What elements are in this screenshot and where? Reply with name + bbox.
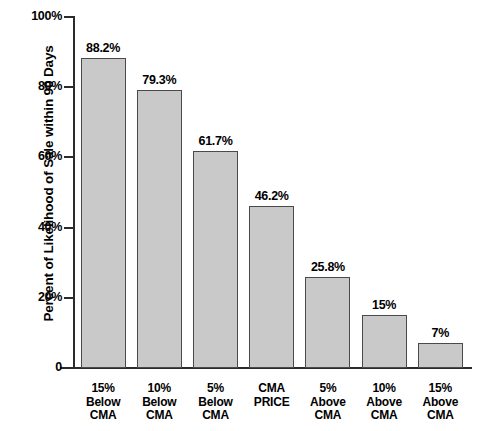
- bar: [305, 277, 350, 368]
- y-tick-label: 0: [12, 360, 62, 374]
- bar-value-label: 15%: [350, 298, 419, 312]
- y-tick-mark: [64, 156, 74, 158]
- y-tick-label: 60%: [12, 149, 62, 163]
- bar-value-label: 88.2%: [69, 41, 138, 55]
- y-tick-mark: [64, 367, 74, 369]
- y-tick-mark: [64, 297, 74, 299]
- x-category-line: Above: [408, 396, 473, 410]
- bar-value-label: 61.7%: [181, 134, 250, 148]
- bar-chart: Percent of Likelihood of Sale within 90 …: [0, 0, 486, 431]
- y-tick-label: 100%: [12, 9, 62, 23]
- bar: [418, 343, 463, 368]
- y-axis-line: [73, 16, 75, 369]
- bar-value-label: 46.2%: [237, 189, 306, 203]
- bar: [81, 58, 126, 368]
- bar: [249, 206, 294, 368]
- x-category-line: CMA: [408, 409, 473, 423]
- x-category-label: 15%AboveCMA: [408, 382, 473, 423]
- x-category-line: 15%: [408, 382, 473, 396]
- bar: [193, 151, 238, 368]
- chart-title-clipped: Percent of Likelihood of Sale within 90 …: [28, 0, 243, 4]
- bar: [362, 315, 407, 368]
- bar-value-label: 79.3%: [125, 73, 194, 87]
- x-category-line: CMA: [183, 409, 248, 423]
- bar-value-label: 25.8%: [293, 260, 362, 274]
- y-tick-label: 20%: [12, 290, 62, 304]
- y-tick-mark: [64, 227, 74, 229]
- y-tick-label: 80%: [12, 79, 62, 93]
- bar: [137, 90, 182, 368]
- y-tick-mark: [64, 16, 74, 18]
- y-tick-mark: [64, 86, 74, 88]
- y-tick-label: 40%: [12, 220, 62, 234]
- bar-value-label: 7%: [406, 326, 475, 340]
- chart-title-text: Percent of Likelihood of Sale within 90 …: [28, 0, 243, 3]
